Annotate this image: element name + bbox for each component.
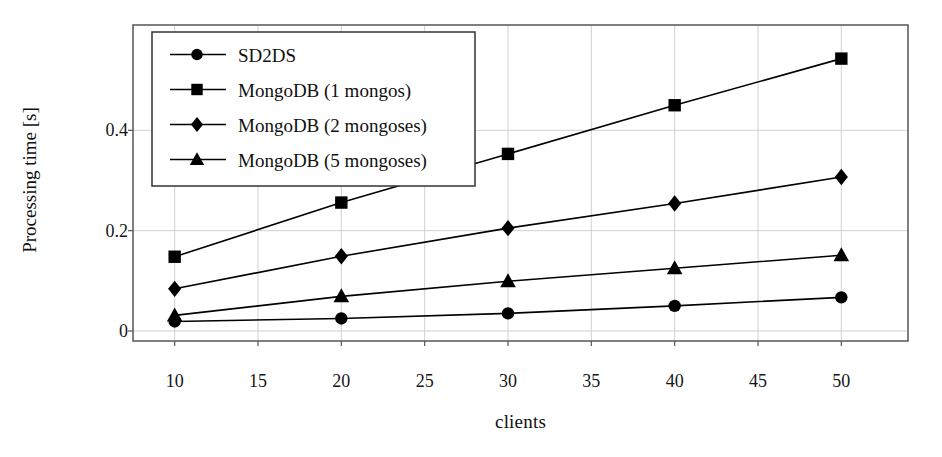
legend-label: MongoDB (1 mongos) — [238, 80, 411, 102]
data-point — [335, 196, 347, 208]
data-point — [835, 52, 847, 64]
legend-label: MongoDB (2 mongoses) — [238, 115, 427, 137]
data-point — [668, 99, 680, 111]
legend-label: SD2DS — [238, 45, 296, 66]
data-point — [668, 300, 680, 312]
chart-figure: Processing time [s] 00.20.4 101520253035… — [0, 0, 942, 457]
data-point — [835, 291, 847, 303]
data-point — [502, 307, 514, 319]
legend-marker-square — [191, 84, 202, 95]
plot-canvas: SD2DSMongoDB (1 mongos)MongoDB (2 mongos… — [0, 0, 942, 457]
chart-legend: SD2DSMongoDB (1 mongos)MongoDB (2 mongos… — [152, 32, 475, 186]
data-point — [168, 281, 181, 297]
legend-marker-circle — [191, 49, 202, 60]
data-point — [335, 312, 347, 324]
data-point — [501, 220, 514, 236]
data-point — [668, 195, 681, 211]
data-point — [502, 148, 514, 160]
data-point — [835, 169, 848, 185]
data-point — [168, 251, 180, 263]
data-point — [834, 247, 850, 261]
data-point — [335, 248, 348, 264]
legend-label: MongoDB (5 mongoses) — [238, 150, 427, 172]
